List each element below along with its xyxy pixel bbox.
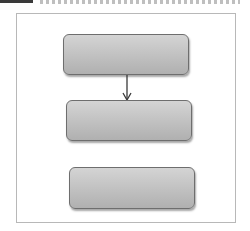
- header-bar: [0, 0, 33, 3]
- header-text: [40, 0, 240, 4]
- flow-node-3: [69, 167, 195, 209]
- arrow-down-icon: [121, 75, 133, 101]
- flow-node-1: [63, 34, 189, 75]
- flow-node-2: [66, 100, 192, 141]
